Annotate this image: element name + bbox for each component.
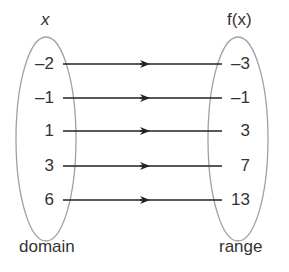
range-value: –1	[231, 89, 250, 106]
domain-value: –1	[35, 89, 54, 106]
range-value: 13	[231, 191, 250, 208]
range-value: 7	[241, 157, 250, 174]
domain-value: 6	[45, 191, 54, 208]
domain-value: –2	[35, 55, 54, 72]
domain-label: domain	[19, 238, 75, 255]
range-label: range	[219, 238, 262, 255]
range-header: f(x)	[227, 11, 252, 28]
domain-value: 1	[45, 122, 54, 139]
range-value: 3	[241, 122, 250, 139]
domain-header: x	[41, 11, 50, 28]
range-value: –3	[231, 55, 250, 72]
domain-value: 3	[45, 157, 54, 174]
